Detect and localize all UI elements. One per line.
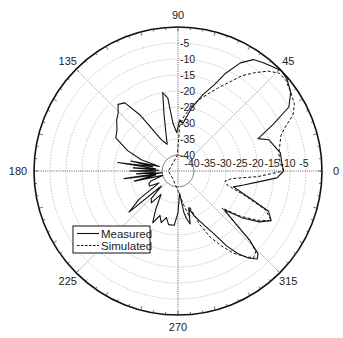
outer-tick [53,99,56,101]
radial-label-vertical: -35 [180,133,195,145]
outer-tick [106,292,108,295]
radial-label-vertical: -15 [180,69,195,81]
legend-label-measured: Measured [101,228,152,240]
outer-tick [76,270,79,273]
angle-label-135: 135 [59,55,77,67]
radial-label-vertical: -30 [180,117,195,129]
radial-label-vertical: -20 [180,85,195,97]
angle-label-180: 180 [9,165,27,177]
legend-label-simulated: Simulated [101,240,152,252]
radial-label-horizontal: -35 [200,157,215,169]
grid-spoke [189,182,280,273]
radial-label-horizontal: -40 [184,157,199,169]
angle-label-270: 270 [169,321,187,333]
outer-tick [277,270,280,273]
radial-label-horizontal: -10 [280,157,295,169]
grid-spoke [189,69,280,160]
angle-label-315: 315 [279,275,297,287]
outer-tick [53,241,56,243]
radial-label-horizontal: -5 [299,157,308,169]
outer-tick [248,292,250,295]
angle-label-90: 90 [172,9,184,21]
outer-tick [299,241,302,243]
outer-tick [106,46,108,49]
legend: MeasuredSimulated [73,226,152,253]
radial-label-horizontal: -20 [248,157,263,169]
outer-tick [299,99,302,101]
outer-tick [248,46,250,49]
radial-label-vertical: -10 [180,53,195,65]
grid-spoke [76,69,167,160]
radial-label-horizontal: -25 [232,157,247,169]
angle-label-45: 45 [282,55,294,67]
radial-label-vertical: -25 [180,101,195,113]
outer-tick [76,69,79,72]
polar-radiation-pattern-chart: 04590135180225270315-40-40-35-35-30-30-2… [0,0,343,338]
angle-label-0: 0 [333,165,339,177]
radial-label-vertical: -5 [180,37,189,49]
radial-label-horizontal: -30 [216,157,231,169]
radial-label-horizontal: -15 [264,157,279,169]
angle-label-225: 225 [59,275,77,287]
